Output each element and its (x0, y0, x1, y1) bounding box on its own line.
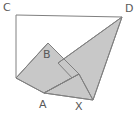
vertex-label-x: X (75, 101, 83, 112)
geometry-figure: C D B A X (0, 0, 139, 120)
geometry-canvas (0, 0, 139, 120)
vertex-label-a: A (39, 99, 47, 110)
vertex-label-b: B (43, 49, 51, 60)
shape-rectangle-outline (16, 15, 122, 17)
vertex-label-c: C (3, 2, 11, 13)
vertex-label-d: D (125, 3, 133, 14)
